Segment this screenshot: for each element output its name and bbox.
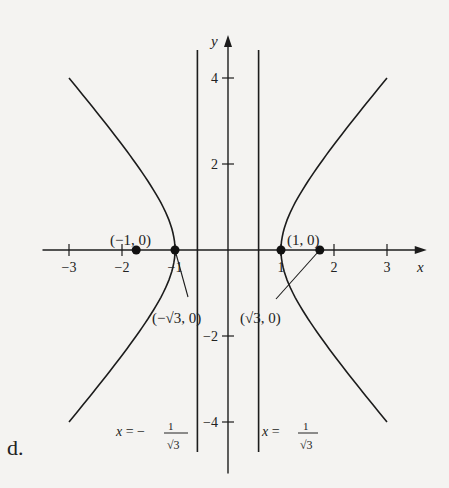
directrix-right-label: x = 1 √3 — [261, 420, 318, 452]
y-axis-arrow-icon — [224, 35, 232, 47]
y-tick-label: 4 — [211, 71, 218, 86]
y-tick-label: 2 — [211, 157, 218, 172]
label-sqrt3-zero: (√3, 0) — [240, 310, 281, 327]
hyperbola-plot: −3−2−112342−2−4 (−1, 0) (1, 0) (−√3, 0) … — [0, 0, 449, 488]
svg-text:x = −: x = − — [115, 424, 145, 439]
label-neg-one-zero: (−1, 0) — [110, 232, 151, 249]
directrix-left-numerator: 1 — [168, 420, 174, 432]
x-tick-label: −3 — [62, 260, 77, 275]
point-right-vertex — [277, 246, 286, 255]
x-axis-arrow-icon — [415, 246, 427, 254]
directrix-left-label: x = − 1 √3 — [115, 420, 188, 452]
label-neg-sqrt3-zero: (−√3, 0) — [152, 310, 201, 327]
y-axis-label: y — [209, 33, 218, 49]
point-left-vertex — [171, 246, 180, 255]
x-tick-label: 2 — [331, 260, 338, 275]
y-tick-label: −2 — [203, 329, 218, 344]
directrix-right-numerator: 1 — [303, 420, 309, 432]
svg-text:x =: x = — [261, 424, 280, 439]
directrix-left-denominator: √3 — [167, 438, 180, 452]
panel-label: d. — [7, 435, 24, 460]
x-tick-label: −2 — [115, 260, 130, 275]
labels: (−1, 0) (1, 0) (−√3, 0) (√3, 0) x y x = … — [110, 33, 424, 452]
x-tick-label: 3 — [384, 260, 391, 275]
x-axis-label: x — [416, 259, 424, 275]
directrix-right-denominator: √3 — [300, 438, 313, 452]
y-tick-label: −4 — [203, 415, 218, 430]
label-one-zero: (1, 0) — [287, 232, 320, 249]
